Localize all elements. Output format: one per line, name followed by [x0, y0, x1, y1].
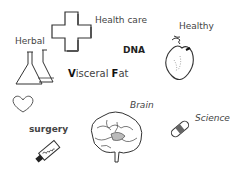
syringe-icon	[32, 137, 64, 167]
heart-organ-icon	[162, 34, 196, 84]
brain-icon	[87, 108, 145, 168]
visceral-fat-label: Visceral Fat	[68, 68, 129, 79]
flasks-icon	[14, 48, 60, 90]
healthy-label: Healthy	[179, 21, 214, 31]
dna-label: DNA	[123, 45, 145, 55]
test-tube-icon	[168, 117, 192, 141]
heart-outline-icon	[11, 94, 35, 114]
herbal-label: Herbal	[15, 36, 45, 46]
surgery-label: surgery	[29, 124, 68, 134]
science-label: Science	[195, 113, 230, 123]
health-care-label: Health care	[95, 15, 147, 25]
